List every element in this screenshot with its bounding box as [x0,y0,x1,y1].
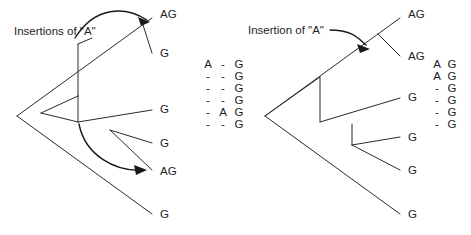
aln-right-r5-c1: G [448,118,457,130]
aln-right-r0-c0: A [433,58,441,70]
right-tree: Insertion of "A" AG AG G G G G [248,8,425,220]
aln-left-r1-c0: - [206,70,210,82]
aln-left-r4-c0: - [206,106,210,118]
aln-left-r0-c0: A [204,58,212,70]
left-tip-label-4: G [160,137,169,149]
aln-left-r0-c2: G [235,58,244,70]
aln-left-r3-c0: - [206,94,210,106]
aln-left-r0-c1: - [221,58,225,70]
left-tree-clade-lower-edge [41,113,78,122]
left-tree: Insertions of "A" AG G G G AG G [14,8,177,220]
right-alignment-block: A G A G - G - G - G - G [433,58,456,130]
left-panel-caption: Insertions of "A" [14,25,96,37]
left-tip-label-5: AG [160,165,177,177]
aln-left-r4-c1: A [219,106,227,118]
aln-right-r1-c0: A [433,70,441,82]
aln-right-r3-c1: G [448,94,457,106]
right-tree-branch-g5 [352,145,400,170]
right-tip-label-2: AG [408,50,425,62]
aln-right-r0-c1: G [448,58,457,70]
right-tip-label-4: G [408,131,417,143]
aln-left-r4-c2: G [235,106,244,118]
left-tree-clade-upper-edge [41,96,78,113]
aln-left-r2-c1: - [221,82,225,94]
aln-left-r1-c1: - [221,70,225,82]
left-tree-vertical-connector-upper-top [78,38,92,44]
right-panel-caption: Insertion of "A" [248,24,324,36]
aln-right-r4-c0: - [435,106,439,118]
right-tree-lower-backbone [265,116,400,214]
left-tree-lower-backbone [17,116,152,214]
phylogenetic-insertion-figure: Insertions of "A" AG G G G AG G A - G - … [0,0,471,235]
aln-right-r2-c0: - [435,82,439,94]
left-alignment-block: A - G - - G - - G - - G - A G - - G [204,58,243,130]
left-tip-label-1: AG [160,8,177,20]
right-tree-branch-g4 [352,137,400,145]
right-tip-label-3: G [408,91,417,103]
aln-left-r2-c2: G [235,82,244,94]
left-tree-branch-top-g [143,25,152,53]
aln-left-r5-c1: - [221,118,225,130]
aln-right-r1-c1: G [448,70,457,82]
aln-right-r4-c1: G [448,106,457,118]
right-tip-label-6: G [408,208,417,220]
right-tip-label-1: AG [408,8,425,20]
left-tip-label-3: G [160,103,169,115]
left-tree-branch-mid-g [78,110,152,122]
right-tree-branch-g3 [320,98,400,122]
aln-left-r2-c0: - [206,82,210,94]
right-tip-label-5: G [408,164,417,176]
aln-right-r2-c1: G [448,82,457,94]
left-insertion-arrowhead-lower [134,165,147,175]
right-insertion-arrowhead [357,44,370,53]
aln-left-r1-c2: G [235,70,244,82]
aln-left-r5-c2: G [235,118,244,130]
right-tree-branch-ag2 [378,34,400,56]
right-tree-clade-upper [265,77,320,116]
aln-left-r5-c0: - [206,118,210,130]
left-tip-label-6: G [160,208,169,220]
aln-right-r3-c0: - [435,94,439,106]
right-insertion-arrow [330,30,366,45]
aln-right-r5-c0: - [435,118,439,130]
aln-left-r3-c2: G [235,94,244,106]
aln-left-r3-c1: - [221,94,225,106]
left-tip-label-2: G [160,47,169,59]
